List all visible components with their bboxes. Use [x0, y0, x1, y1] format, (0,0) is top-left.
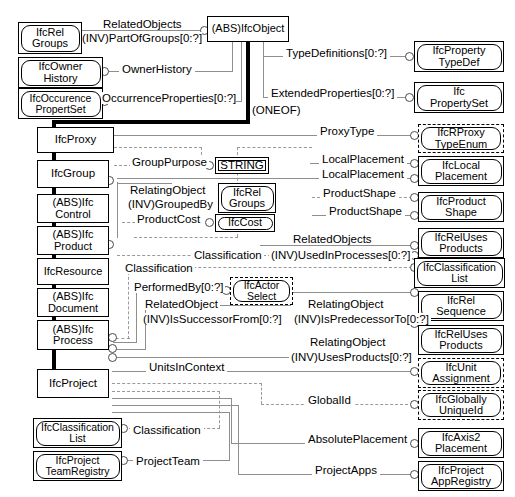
label-extended-properties: ExtendedProperties[0:?] — [268, 87, 397, 99]
label-inv-uses-products: (INV)UsesProducts[0:?] — [289, 351, 414, 363]
entity-label: IfcProject TeamRegistry — [45, 455, 109, 476]
entity-ifc-project[interactable]: IfcProject — [37, 369, 109, 398]
dashed-local-placement-1 — [237, 147, 312, 148]
entity-label: STRING — [220, 160, 263, 172]
entity-ifc-project-appregistry[interactable]: IfcProject AppRegistry — [418, 461, 504, 491]
label-type-definitions: TypeDefinitions[0:?] — [283, 47, 390, 59]
entity-label: IfcProject — [49, 378, 97, 390]
entity-ifc-cost[interactable]: IfcCost — [215, 214, 275, 232]
entity-label: (ABS)Ifc Process — [53, 324, 94, 346]
label-owner-history: OwnerHistory — [119, 63, 195, 75]
entity-ifc-property-typedef[interactable]: IfcProperty TypeDef — [414, 41, 504, 72]
line-project-apps-top — [112, 405, 239, 406]
entity-label: IfcRProxy TypeEnum — [435, 127, 488, 149]
entity-ifc-rel-uses-products-1[interactable]: IfcRelUses Products — [418, 228, 504, 258]
entity-label: IfcOccurence PropertSet — [30, 93, 92, 114]
entity-ifc-product-shape[interactable]: IfcProduct Shape — [418, 192, 504, 222]
entity-label: IfcCost — [228, 217, 262, 228]
line-related-objects-mid — [260, 245, 414, 246]
entity-ifc-document[interactable]: (ABS)Ifc Document — [37, 288, 109, 317]
label-product-shape-2: ProductShape — [326, 205, 405, 217]
label-performed-by: PerformedBy[0:?] — [132, 281, 225, 293]
entity-ifc-object[interactable]: (ABS)IfcObject — [207, 16, 289, 42]
line-absolute-placement-top — [112, 398, 232, 399]
line-project-apps-riser — [238, 405, 239, 475]
label-local-placement-2: LocalPlacement — [319, 168, 407, 180]
supertype-trunk-horizontal — [52, 120, 250, 124]
entity-label: IfcRel Groups — [229, 187, 265, 209]
entity-label: Ifc PropertySet — [430, 86, 488, 108]
label-inv-grouped-by: (INV)GroupedBy — [126, 198, 215, 210]
entity-ifc-process[interactable]: (ABS)Ifc Process — [37, 320, 109, 350]
entity-label: IfcAxis2 Placement — [435, 432, 487, 454]
label-units-in-context: UnitsInContext — [146, 361, 227, 373]
label-group-purpose: GroupPurpose — [130, 156, 209, 168]
entity-ifc-proxy[interactable]: IfcProxy — [37, 127, 114, 153]
entity-ifc-control[interactable]: (ABS)Ifc Control — [37, 194, 109, 223]
entity-ifc-globally-uniqueid[interactable]: IfcGlobally UniqueId — [418, 390, 504, 420]
line-successor-riser — [145, 305, 146, 349]
entity-label: IfcRelUses Products — [434, 232, 487, 254]
entity-ifc-group[interactable]: IfcGroup — [37, 160, 109, 188]
entity-label: (ABS)IfcObject — [212, 23, 285, 34]
entity-ifc-unit-assignment[interactable]: IfcUnit Assignment — [418, 358, 504, 388]
entity-ifc-project-teamregistry[interactable]: IfcProject TeamRegistry — [33, 451, 122, 481]
entity-ifc-rel-uses-products-2[interactable]: IfcRelUses Products — [418, 325, 504, 355]
entity-ifc-classification-list-right[interactable]: IfcClassification List — [414, 258, 505, 288]
entity-ifc-owner-history[interactable]: IfcOwner History — [18, 57, 103, 88]
circle-process-right-3 — [108, 353, 117, 362]
entity-ifc-actor-select[interactable]: IfcActor Select — [230, 277, 293, 305]
entity-label: IfcProduct Shape — [436, 196, 486, 218]
label-oneof: (ONEOF) — [252, 104, 301, 116]
entity-ifc-resource[interactable]: IfcResource — [37, 258, 109, 285]
label-product-shape-1: ProductShape — [320, 187, 399, 199]
entity-label: (ABS)Ifc Control — [53, 197, 94, 219]
entity-label: IfcGlobally UniqueId — [435, 394, 486, 416]
entity-ifc-product[interactable]: (ABS)Ifc Product — [37, 226, 109, 255]
label-related-objects-top: RelatedObjects — [101, 18, 184, 30]
label-global-id: GlobalId — [305, 394, 354, 406]
label-classification-2: Classification — [123, 262, 195, 274]
label-relating-object-2: RelatingObject — [305, 298, 386, 310]
entity-ifc-propertyset[interactable]: Ifc PropertySet — [414, 82, 504, 113]
entity-ifc-local-placement[interactable]: IfcLocal Placement — [418, 156, 504, 186]
entity-label: IfcRel Sequence — [436, 295, 486, 317]
label-proxy-type: ProxyType — [317, 125, 377, 137]
entity-string-type[interactable]: STRING — [215, 157, 269, 174]
label-inv-part-of-groups: (INV)PartOfGroups[0:?] — [82, 32, 202, 44]
entity-ifc-rel-sequence[interactable]: IfcRel Sequence — [418, 291, 504, 321]
label-product-cost: ProductCost — [135, 213, 202, 225]
label-project-team: ProjectTeam — [133, 455, 203, 467]
dashed-classification-2-riser — [128, 267, 129, 339]
line-performed-by-riser — [136, 290, 137, 342]
line-owner-history-riser — [232, 42, 233, 72]
dashed-group-purpose-1 — [114, 147, 202, 148]
entity-label: IfcProperty TypeDef — [432, 45, 485, 67]
dashed-global-id-top — [112, 383, 262, 384]
line-extended-properties-riser — [263, 42, 264, 98]
circle-extended-properties — [405, 93, 414, 102]
circle-product-cost — [205, 218, 214, 227]
label-local-placement-1: LocalPlacement — [319, 153, 407, 165]
entity-ifc-rproxy-typeenum[interactable]: IfcRProxy TypeEnum — [418, 124, 504, 153]
line-project-team-top — [112, 412, 230, 413]
entity-ifc-occurence-propertset[interactable]: IfcOccurence PropertSet — [18, 88, 103, 119]
entity-label: IfcUnit Assignment — [432, 362, 489, 384]
entity-label: IfcResource — [44, 266, 103, 277]
entity-label: IfcRel Groups — [32, 27, 68, 49]
line-performed-by-tail — [113, 342, 137, 343]
circle-type-definitions — [405, 52, 414, 61]
label-relating-object-1: RelatingObject — [128, 184, 207, 196]
label-classification-1: Classification — [192, 249, 264, 261]
entity-ifc-axis2-placement[interactable]: IfcAxis2 Placement — [418, 428, 504, 458]
line-grouped-by-riser — [117, 182, 118, 238]
label-occurrence-properties: OccurrenceProperties[0:?] — [102, 92, 236, 104]
entity-ifc-classification-list-bottom[interactable]: IfcClassification List — [33, 418, 122, 448]
dashed-classification-bottom-riser — [219, 391, 220, 428]
label-project-apps: ProjectApps — [312, 464, 380, 476]
label-related-object: RelatedObject — [143, 298, 220, 310]
line-successor-tail — [113, 349, 146, 350]
entity-ifc-rel-groups-mid[interactable]: IfcRel Groups — [218, 183, 276, 213]
entity-label: IfcRelUses Products — [434, 329, 487, 351]
entity-ifc-rel-groups-top[interactable]: IfcRel Groups — [18, 22, 82, 54]
